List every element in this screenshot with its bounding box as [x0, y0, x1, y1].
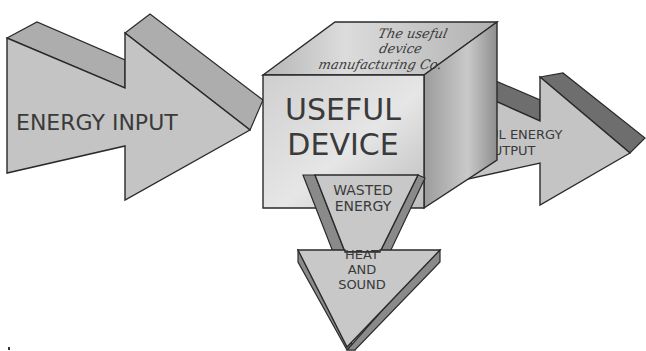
wasted-energy-label-line2: ENERGY [335, 198, 392, 214]
manufacturer-label-line2: device [378, 41, 424, 56]
heat-and-sound-label-line1: HEAT [345, 247, 379, 262]
energy-flow-diagram: ENERGY INPUT USEFUL ENERGY OUTPUT The us… [0, 0, 646, 351]
heat-and-sound-label-line3: SOUND [338, 277, 386, 292]
energy-input-label: ENERGY INPUT [16, 110, 178, 135]
manufacturer-label-line3: manufacturing Co. [317, 57, 443, 72]
wasted-energy-label-line1: WASTED [333, 182, 393, 198]
useful-device-label-line1: USEFUL [285, 92, 401, 127]
heat-and-sound-label-line2: AND [348, 262, 377, 277]
energy-input-arrow: ENERGY INPUT [7, 14, 263, 200]
manufacturer-label-line1: The useful [377, 26, 449, 41]
useful-device-label-line2: DEVICE [287, 127, 398, 162]
stray-mark [8, 347, 10, 350]
